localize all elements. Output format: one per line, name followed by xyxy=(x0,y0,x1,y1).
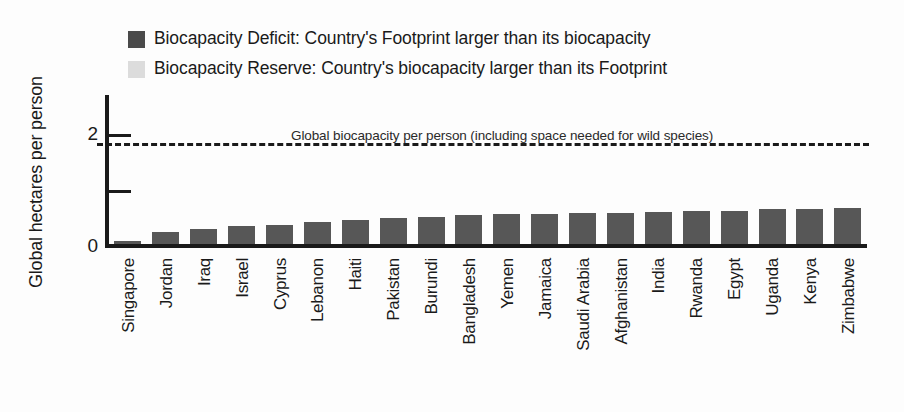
bar-slot[interactable] xyxy=(374,95,412,244)
x-label-bangladesh: Bangladesh xyxy=(460,258,477,345)
legend-swatch-reserve-icon xyxy=(128,61,145,78)
bar-slot[interactable] xyxy=(336,95,374,244)
bar-saudi-arabia[interactable] xyxy=(569,213,596,244)
bar-rwanda[interactable] xyxy=(683,211,710,244)
y-tick-label-0: 0 xyxy=(87,236,98,255)
bar-slot[interactable] xyxy=(753,95,791,244)
x-label-zimbabwe: Zimbabwe xyxy=(839,258,856,334)
x-label-burundi: Burundi xyxy=(423,258,440,315)
x-label-slot: Afghanistan xyxy=(602,254,640,404)
x-label-slot: Haiti xyxy=(336,254,374,404)
legend-entry-reserve: Biocapacity Reserve: Country's biocapaci… xyxy=(128,56,667,82)
x-label-slot: Egypt xyxy=(715,254,753,404)
x-label-haiti: Haiti xyxy=(347,258,364,291)
bar-slot[interactable] xyxy=(223,95,261,244)
bar-jordan[interactable] xyxy=(152,232,179,244)
plot-area: 2 0 Global biocapacity per person (inclu… xyxy=(105,95,867,248)
x-label-slot: Kenya xyxy=(791,254,829,404)
x-label-singapore: Singapore xyxy=(119,258,136,333)
bar-israel[interactable] xyxy=(228,226,255,244)
x-label-pakistan: Pakistan xyxy=(385,258,402,321)
bar-haiti[interactable] xyxy=(342,220,369,244)
bar-slot[interactable] xyxy=(602,95,640,244)
x-label-slot: Saudi Arabia xyxy=(564,254,602,404)
bar-slot[interactable] xyxy=(109,95,147,244)
y-axis-title: Global hectares per person xyxy=(26,38,47,288)
legend-label-deficit: Biocapacity Deficit: Country's Footprint… xyxy=(154,30,651,48)
x-label-slot: Burundi xyxy=(412,254,450,404)
x-label-lebanon: Lebanon xyxy=(309,258,326,322)
bar-slot[interactable] xyxy=(791,95,829,244)
bar-slot[interactable] xyxy=(450,95,488,244)
bar-india[interactable] xyxy=(645,212,672,244)
x-label-egypt: Egypt xyxy=(726,258,743,300)
legend-swatch-deficit-icon xyxy=(128,31,145,48)
x-label-jamaica: Jamaica xyxy=(536,258,553,319)
bar-pakistan[interactable] xyxy=(380,218,407,244)
legend-entry-deficit: Biocapacity Deficit: Country's Footprint… xyxy=(128,26,667,52)
bar-cyprus[interactable] xyxy=(266,225,293,244)
x-label-saudi-arabia: Saudi Arabia xyxy=(574,258,591,351)
x-label-slot: Jamaica xyxy=(526,254,564,404)
bar-slot[interactable] xyxy=(639,95,677,244)
bar-slot[interactable] xyxy=(715,95,753,244)
x-label-slot: Singapore xyxy=(109,254,147,404)
bar-slot[interactable] xyxy=(185,95,223,244)
x-label-iraq: Iraq xyxy=(195,258,212,286)
x-label-slot: Lebanon xyxy=(298,254,336,404)
bar-zimbabwe[interactable] xyxy=(834,208,861,244)
x-axis-line xyxy=(105,244,867,248)
bar-slot[interactable] xyxy=(261,95,299,244)
bar-singapore[interactable] xyxy=(114,241,141,244)
bar-iraq[interactable] xyxy=(190,229,217,244)
y-tick-label-2: 2 xyxy=(87,124,98,143)
biocapacity-bar-chart: Biocapacity Deficit: Country's Footprint… xyxy=(0,0,904,412)
bar-slot[interactable] xyxy=(677,95,715,244)
x-label-jordan: Jordan xyxy=(157,258,174,308)
chart-legend: Biocapacity Deficit: Country's Footprint… xyxy=(128,26,667,82)
x-axis-labels: Singapore Jordan Iraq Israel Cyprus Leba… xyxy=(109,254,867,404)
x-label-slot: India xyxy=(639,254,677,404)
x-label-slot: Jordan xyxy=(147,254,185,404)
x-label-cyprus: Cyprus xyxy=(271,258,288,310)
bar-burundi[interactable] xyxy=(418,217,445,244)
x-label-rwanda: Rwanda xyxy=(688,258,705,319)
bar-egypt[interactable] xyxy=(721,211,748,244)
bar-kenya[interactable] xyxy=(796,209,823,244)
x-label-slot: Uganda xyxy=(753,254,791,404)
x-label-israel: Israel xyxy=(233,258,250,298)
x-label-slot: Bangladesh xyxy=(450,254,488,404)
x-label-afghanistan: Afghanistan xyxy=(612,258,629,345)
bar-uganda[interactable] xyxy=(759,209,786,244)
bar-slot[interactable] xyxy=(412,95,450,244)
bar-series xyxy=(109,95,867,244)
x-label-slot: Zimbabwe xyxy=(829,254,867,404)
x-label-yemen: Yemen xyxy=(498,258,515,309)
x-label-india: India xyxy=(650,258,667,293)
bar-bangladesh[interactable] xyxy=(455,215,482,244)
x-label-slot: Rwanda xyxy=(677,254,715,404)
x-label-slot: Pakistan xyxy=(374,254,412,404)
x-label-kenya: Kenya xyxy=(801,258,818,305)
bar-slot[interactable] xyxy=(829,95,867,244)
x-label-slot: Yemen xyxy=(488,254,526,404)
bar-slot[interactable] xyxy=(298,95,336,244)
x-label-uganda: Uganda xyxy=(764,258,781,316)
bar-yemen[interactable] xyxy=(493,214,520,244)
bar-afghanistan[interactable] xyxy=(607,213,634,244)
bar-slot[interactable] xyxy=(488,95,526,244)
x-label-slot: Israel xyxy=(223,254,261,404)
bar-slot[interactable] xyxy=(564,95,602,244)
legend-label-reserve: Biocapacity Reserve: Country's biocapaci… xyxy=(154,60,667,78)
x-label-slot: Cyprus xyxy=(261,254,299,404)
x-label-slot: Iraq xyxy=(185,254,223,404)
bar-jamaica[interactable] xyxy=(531,214,558,244)
bar-slot[interactable] xyxy=(526,95,564,244)
bar-lebanon[interactable] xyxy=(304,222,331,244)
bar-slot[interactable] xyxy=(147,95,185,244)
